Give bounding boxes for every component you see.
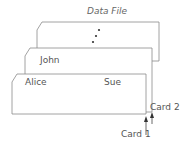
middle-card-label: John: [40, 56, 60, 65]
front-card-label-left: Alice: [25, 78, 47, 87]
data-file-diagram: [0, 0, 188, 145]
ellipsis-dot: [98, 29, 100, 31]
card1-arrowhead: [144, 116, 148, 122]
front-card-label-right: Sue: [104, 78, 121, 87]
card1-label: Card 1: [121, 130, 151, 139]
ellipsis-dot: [92, 41, 94, 43]
card2-label: Card 2: [150, 103, 180, 112]
diagram-title: Data File: [87, 7, 127, 16]
ellipsis-dot: [95, 35, 97, 37]
card2-arrowhead: [150, 112, 154, 118]
